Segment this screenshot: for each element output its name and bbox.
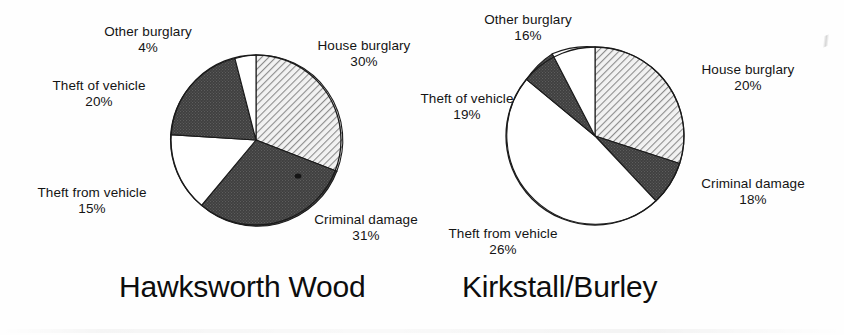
slice-label-criminal-damage: Criminal damage 18% (685, 176, 821, 209)
slice-label-criminal-damage-pct: 31% (299, 228, 433, 244)
slice-label-house-burglary-pct: 30% (301, 54, 427, 70)
slice-label-house-burglary-pct: 20% (685, 78, 811, 94)
slice-label-theft-from-vehicle-name: Theft from vehicle (448, 226, 557, 241)
slice-label-criminal-damage-name: Criminal damage (314, 212, 418, 227)
slice-label-other-burglary-name: Other burglary (104, 24, 192, 39)
slice-label-house-burglary: House burglary 20% (685, 62, 811, 95)
slice-label-criminal-damage-pct: 18% (685, 192, 821, 208)
slice-label-criminal-damage-name: Criminal damage (701, 176, 805, 191)
slice-label-theft-from-vehicle: Theft from vehicle 26% (428, 226, 578, 259)
slice-label-theft-of-vehicle: Theft of vehicle 19% (402, 91, 532, 124)
chart-panel-kirkstall-burley: Other burglary 16% Theft of vehicle 19% … (422, 0, 844, 335)
slice-label-theft-from-vehicle: Theft from vehicle 15% (17, 185, 167, 218)
scan-banding (0, 329, 844, 333)
slice-label-other-burglary-name: Other burglary (484, 12, 572, 27)
slice-label-theft-of-vehicle-name: Theft of vehicle (420, 91, 513, 106)
chart-title-hawksworth-wood: Hawksworth Wood (119, 272, 366, 302)
slice-label-other-burglary: Other burglary 4% (84, 24, 212, 57)
slice-label-theft-of-vehicle-pct: 20% (34, 94, 164, 110)
slice-label-other-burglary: Other burglary 16% (464, 12, 592, 45)
chart-panel-hawksworth-wood: Other burglary 4% Theft of vehicle 20% T… (0, 0, 422, 335)
slice-label-other-burglary-pct: 4% (84, 40, 212, 56)
slice-label-theft-of-vehicle-name: Theft of vehicle (52, 78, 145, 93)
chart-title-kirkstall-burley: Kirkstall/Burley (462, 272, 657, 302)
slice-label-other-burglary-pct: 16% (464, 28, 592, 44)
scan-blemish (295, 173, 302, 178)
pie-chart-figure: Other burglary 4% Theft of vehicle 20% T… (0, 0, 844, 335)
slice-label-theft-from-vehicle-name: Theft from vehicle (37, 185, 146, 200)
slice-label-criminal-damage: Criminal damage 31% (299, 212, 433, 245)
slice-label-theft-from-vehicle-pct: 26% (428, 242, 578, 258)
slice-label-house-burglary: House burglary 30% (301, 38, 427, 71)
slice-label-house-burglary-name: House burglary (702, 62, 795, 77)
slice-label-theft-of-vehicle: Theft of vehicle 20% (34, 78, 164, 111)
slice-label-theft-from-vehicle-pct: 15% (17, 201, 167, 217)
slice-label-theft-of-vehicle-pct: 19% (402, 107, 532, 123)
slice-label-house-burglary-name: House burglary (318, 38, 411, 53)
